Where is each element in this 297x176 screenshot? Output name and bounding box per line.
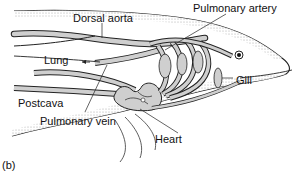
label-postcava: Postcava bbox=[18, 98, 63, 109]
fish-circulation-diagram bbox=[0, 0, 297, 176]
panel-label: (b) bbox=[2, 160, 15, 171]
label-dorsal-aorta: Dorsal aorta bbox=[73, 13, 133, 24]
lung-vessel bbox=[14, 50, 160, 64]
heart-leader bbox=[140, 109, 178, 133]
label-pulmonary-vein: Pulmonary vein bbox=[40, 116, 116, 127]
label-lung: Lung bbox=[44, 55, 68, 66]
pulmonary-vein-leader bbox=[85, 65, 107, 112]
label-heart: Heart bbox=[155, 134, 182, 145]
label-gill: Gill bbox=[236, 75, 252, 86]
eye-icon bbox=[235, 51, 243, 59]
label-pulmonary-artery: Pulmonary artery bbox=[193, 3, 277, 14]
